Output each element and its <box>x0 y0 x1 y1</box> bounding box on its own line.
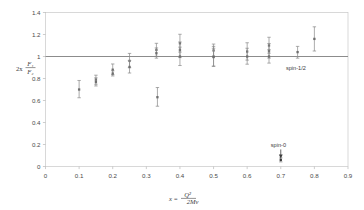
y-tick-label: 0.2 <box>32 141 41 148</box>
y-tick-label: 0 <box>37 163 41 170</box>
y-tick-label: 0.8 <box>32 75 41 82</box>
data-marker <box>246 55 248 57</box>
x-tick-label: 0 <box>44 172 48 179</box>
chart-figure: 00.10.20.30.40.50.60.70.80.9 00.20.40.60… <box>0 0 364 210</box>
x-tick-label: 0.8 <box>310 172 319 179</box>
data-marker <box>296 51 298 53</box>
chart-background <box>0 0 364 210</box>
y-tick-label: 1.2 <box>32 31 41 38</box>
data-marker <box>95 81 97 83</box>
x-tick-label: 0.2 <box>108 172 117 179</box>
x-tick-label: 0.9 <box>344 172 353 179</box>
x-tick-label: 0.1 <box>75 172 84 179</box>
callan-gross-ratio-plot: 00.10.20.30.40.50.60.70.80.9 00.20.40.60… <box>0 0 364 210</box>
data-marker <box>280 159 282 161</box>
x-tick-label: 0.7 <box>276 172 285 179</box>
annotation-spin-zero-label: spin-0 <box>271 142 286 148</box>
x-tick-label: 0.6 <box>243 172 252 179</box>
x-axis-title-numerator: Q² <box>184 191 192 198</box>
y-axis-title-lead: 2x <box>16 65 23 72</box>
data-marker <box>212 56 214 58</box>
x-tick-label: 0.5 <box>209 172 218 179</box>
data-marker <box>268 55 270 57</box>
y-tick-label: 0.4 <box>32 119 41 126</box>
y-tick-label: 1.4 <box>32 9 41 16</box>
data-marker <box>179 55 181 57</box>
data-marker <box>112 72 114 74</box>
x-tick-label: 0.4 <box>176 172 185 179</box>
x-axis-title-lead: x = <box>168 195 178 202</box>
y-tick-label: 0.6 <box>32 97 41 104</box>
data-marker <box>128 66 130 68</box>
annotation-spin-half-label: spin-1/2 <box>286 65 306 71</box>
x-axis-title-denominator: 2Mν <box>187 198 199 205</box>
y-axis-title-numerator: F₁ <box>26 60 33 67</box>
x-tick-label: 0.3 <box>142 172 151 179</box>
y-tick-label: 1 <box>37 53 41 60</box>
data-marker <box>313 38 315 40</box>
y-axis-title-denominator: F₂ <box>26 68 34 75</box>
data-marker <box>78 88 80 90</box>
data-marker <box>155 52 157 54</box>
data-marker <box>156 96 158 98</box>
